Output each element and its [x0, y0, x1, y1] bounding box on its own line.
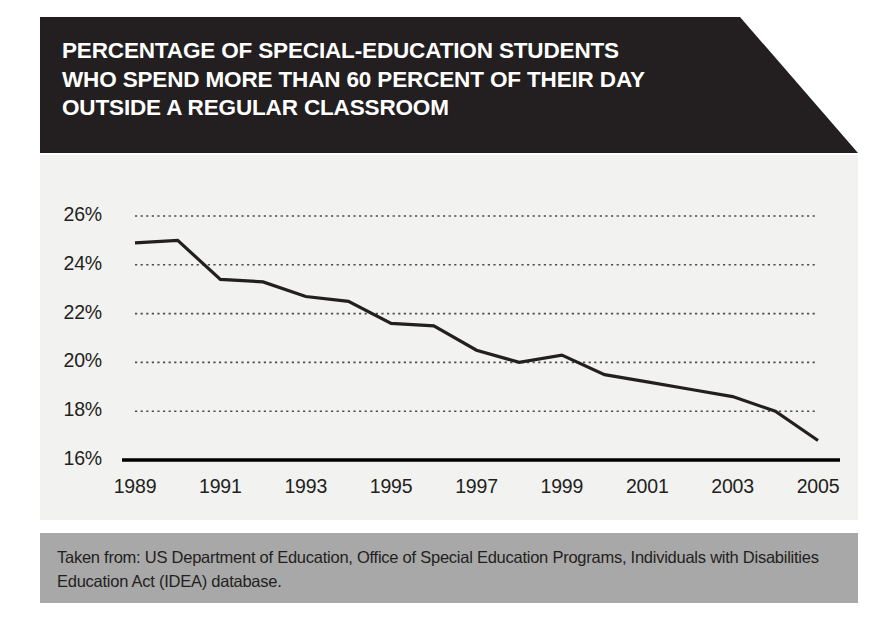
gridline-group: [135, 216, 818, 411]
chart-plot-area: 16%18%20%22%24%26% 198919911993199519971…: [40, 155, 858, 520]
y-axis-tick-label: 16%: [40, 447, 102, 470]
x-axis-tick-label: 1995: [351, 475, 431, 498]
chart-title: PERCENTAGE OF SPECIAL-EDUCATION STUDENTS…: [62, 37, 702, 123]
y-axis-tick-label: 18%: [40, 398, 102, 421]
x-axis-tick-label: 1991: [180, 475, 260, 498]
caption-line-1: Taken from: US Department of Education, …: [57, 548, 706, 566]
y-axis-tick-label: 24%: [40, 252, 102, 275]
x-axis-tick-label: 1993: [266, 475, 346, 498]
source-caption-text: Taken from: US Department of Education, …: [57, 545, 847, 593]
x-axis-tick-label: 1997: [437, 475, 517, 498]
y-axis-tick-label: 26%: [40, 203, 102, 226]
x-axis-tick-label: 2003: [693, 475, 773, 498]
chart-svg: [40, 155, 858, 520]
title-line-2: WHO SPEND MORE THAN 60 PERCENT OF THEIR …: [62, 66, 702, 95]
title-banner: PERCENTAGE OF SPECIAL-EDUCATION STUDENTS…: [40, 17, 858, 153]
x-axis-tick-label: 1989: [95, 475, 175, 498]
y-axis-tick-label: 20%: [40, 349, 102, 372]
x-axis-tick-label: 1999: [522, 475, 602, 498]
title-line-3: OUTSIDE A REGULAR CLASSROOM: [62, 94, 702, 123]
x-axis-tick-label: 2005: [778, 475, 858, 498]
source-caption: Taken from: US Department of Education, …: [40, 533, 858, 603]
y-axis-tick-label: 22%: [40, 301, 102, 324]
title-line-1: PERCENTAGE OF SPECIAL-EDUCATION STUDENTS: [62, 37, 702, 66]
x-axis-tick-label: 2001: [607, 475, 687, 498]
chart-figure: PERCENTAGE OF SPECIAL-EDUCATION STUDENTS…: [0, 0, 896, 622]
